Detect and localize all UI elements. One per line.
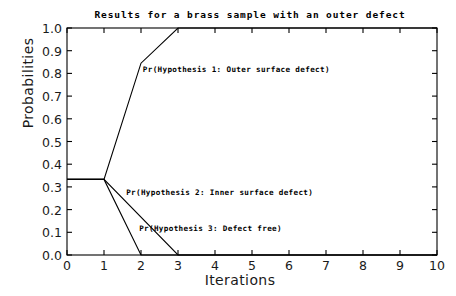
data-series-lines [67,28,437,255]
series-3-annotation: Pr(Hypothesis 3: Defect free) [139,224,282,233]
series-2-annotation: Pr(Hypothesis 2: Inner surface defect) [126,188,313,197]
chart-figure: Results for a brass sample with an outer… [0,0,456,296]
plot-area [0,0,456,296]
plot-frame [67,28,437,255]
axis-ticks [67,28,437,255]
series-1-annotation: Pr(Hypothesis 1: Outer surface defect) [143,65,330,74]
